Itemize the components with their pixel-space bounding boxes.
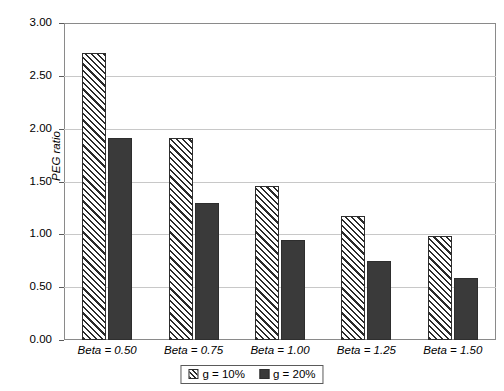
y-tick-label: 0.00 xyxy=(30,334,52,346)
bar-g10 xyxy=(255,186,279,340)
peg-ratio-bar-chart: 0.000.501.001.502.002.503.00 PEG ratio B… xyxy=(0,0,504,391)
y-tick-label: 2.00 xyxy=(30,123,52,135)
bar-g20 xyxy=(281,240,305,340)
y-axis-title: PEG ratio xyxy=(50,96,62,216)
chart-legend: g = 10% g = 20% xyxy=(180,365,323,384)
bar-g10 xyxy=(428,236,452,340)
bar-g20 xyxy=(195,203,219,340)
legend-item-g10: g = 10% xyxy=(188,368,245,380)
x-tick-label: Beta = 1.50 xyxy=(423,344,482,356)
y-tick-mark xyxy=(59,340,64,341)
legend-label-g20: g = 20% xyxy=(273,368,316,380)
gridline xyxy=(64,129,496,130)
y-tick-label: 2.50 xyxy=(30,70,52,82)
x-tick-label: Beta = 1.00 xyxy=(250,344,309,356)
legend-swatch-hatch-icon xyxy=(188,369,198,379)
y-tick-label: 3.00 xyxy=(30,17,52,29)
x-axis-labels: Beta = 0.50Beta = 0.75Beta = 1.00Beta = … xyxy=(64,344,496,362)
x-tick-label: Beta = 1.25 xyxy=(337,344,396,356)
bar-g10 xyxy=(169,138,193,340)
bar-g10 xyxy=(82,53,106,340)
y-tick-label: 0.50 xyxy=(30,281,52,293)
plot-area xyxy=(64,23,496,340)
y-tick-label: 1.50 xyxy=(30,176,52,188)
y-tick-label: 1.00 xyxy=(30,228,52,240)
legend-swatch-solid-icon xyxy=(259,369,269,379)
bar-g20 xyxy=(108,138,132,340)
x-tick-label: Beta = 0.50 xyxy=(78,344,137,356)
x-tick-label: Beta = 0.75 xyxy=(164,344,223,356)
legend-label-g10: g = 10% xyxy=(202,368,245,380)
bar-g10 xyxy=(341,216,365,340)
bar-g20 xyxy=(367,261,391,340)
gridline xyxy=(64,76,496,77)
bar-g20 xyxy=(454,278,478,340)
legend-item-g20: g = 20% xyxy=(259,368,316,380)
